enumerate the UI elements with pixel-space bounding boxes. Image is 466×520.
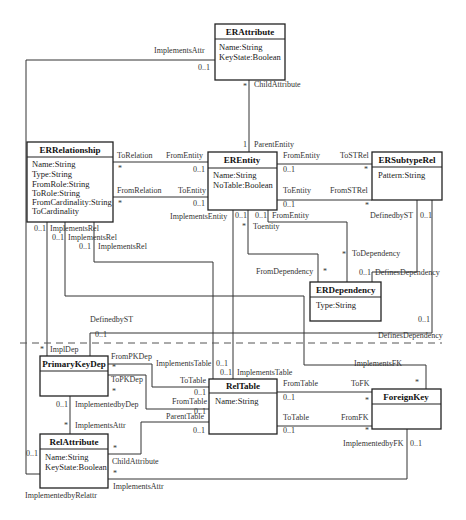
class-ersubtyperel[interactable]: ERSubtypeRel Pattern:String — [372, 152, 442, 200]
multiplicity-label: * — [112, 387, 116, 396]
class-attribute: Type:String — [316, 300, 357, 310]
multiplicity-label: * — [365, 426, 369, 435]
multiplicity-label: * — [323, 267, 327, 276]
class-attribute: Name:String — [213, 170, 257, 180]
multiplicity-label: 0..1 — [283, 165, 295, 174]
class-title: RelAttribute — [50, 437, 99, 447]
role-label: DefinedbyST — [90, 315, 133, 324]
role-label: ImplementsRel — [68, 233, 118, 242]
multiplicity-label: 0..1 — [283, 393, 295, 402]
class-attribute: KeyState:Boolean — [219, 52, 282, 62]
multiplicity-label: * — [364, 165, 368, 174]
role-label: DefinedbyST — [370, 211, 413, 220]
role-label: ToTable — [283, 413, 309, 422]
class-attribute: Name:String — [215, 396, 259, 406]
role-label: ParentEntity — [254, 140, 294, 149]
class-title: ERSubtypeRel — [378, 155, 436, 165]
role-label: FromDependency — [256, 267, 313, 276]
class-title: PrimaryKeyDep — [42, 359, 105, 369]
multiplicity-label: * — [365, 396, 369, 405]
multiplicity-label: 0..1 — [220, 368, 232, 377]
role-label: ImplementsAttr — [75, 421, 126, 430]
assoc-implementsattr-implementedbyfk — [107, 429, 407, 479]
multiplicity-label: 0..1 — [26, 449, 38, 458]
multiplicity-label: * — [243, 82, 247, 91]
role-label: ImplementsAttr — [113, 482, 164, 491]
multiplicity-label: 0..1 — [193, 165, 205, 174]
class-relattribute[interactable]: RelAttribute Name:String KeyState:Boolea… — [40, 434, 108, 488]
multiplicity-label: * — [40, 345, 44, 354]
class-reltable[interactable]: RelTable Name:String — [209, 379, 277, 434]
role-label: ToTable — [180, 376, 206, 385]
multiplicity-label: 1 — [243, 140, 247, 149]
class-title: EREntity — [224, 155, 261, 165]
multiplicity-label: * — [415, 378, 419, 387]
multiplicity-label: 0..1 — [410, 439, 422, 448]
multiplicity-label: 0..1 — [79, 242, 91, 251]
multiplicity-label: * — [113, 444, 117, 453]
uml-class-diagram: ERAttribute Name:String KeyState:Boolean… — [0, 0, 466, 520]
multiplicity-label: * — [118, 199, 122, 208]
role-label: ToFK — [351, 379, 370, 388]
class-attribute: Name:String — [45, 452, 89, 462]
multiplicity-label: 0..1 — [235, 211, 247, 220]
class-title: ERAttribute — [226, 27, 275, 37]
class-foreignkey[interactable]: ForeignKey — [372, 389, 441, 429]
role-label: FromFK — [341, 413, 369, 422]
class-attribute: Pattern:String — [378, 170, 426, 180]
class-title: ERRelationship — [39, 145, 100, 155]
role-label: ImplementsRel — [50, 224, 100, 233]
role-label: ImplementedbyRelattr — [25, 491, 97, 500]
role-label: ImplementsEntity — [170, 212, 227, 221]
class-erattribute[interactable]: ERAttribute Name:String KeyState:Boolean — [215, 24, 285, 80]
multiplicity-label: * — [365, 201, 369, 210]
role-label: ToSTRel — [340, 151, 370, 160]
role-label: FromRelation — [117, 186, 161, 195]
role-label: ImplementsFK — [354, 359, 402, 368]
multiplicity-label: 0..1 — [283, 200, 295, 209]
class-attribute: Name:String — [32, 159, 76, 169]
role-label: ToEntity — [178, 186, 206, 195]
role-label: FromEntity — [283, 151, 320, 160]
multiplicity-label: * — [342, 250, 346, 259]
multiplicity-label: 0..1 — [359, 268, 371, 277]
class-attribute: Type:String — [32, 169, 73, 179]
class-title: ERDependency — [316, 285, 376, 295]
multiplicity-label: 0..1 — [52, 233, 64, 242]
role-label: ChildAttribute — [112, 457, 159, 466]
multiplicity-label: * — [242, 222, 246, 231]
multiplicity-label: 0..1 — [34, 224, 46, 233]
class-erentity[interactable]: EREntity Name:String NoTable:Boolean — [208, 152, 277, 210]
role-label: ImplementedbyDep — [75, 400, 139, 409]
multiplicity-label: 0..1 — [420, 211, 432, 220]
role-label: FromPKDep — [111, 352, 152, 361]
role-label: ToEntity — [283, 186, 311, 195]
role-label: FromEntity — [272, 211, 309, 220]
role-label: ImplDep — [50, 345, 78, 354]
class-attribute: ToCardinality — [32, 206, 80, 216]
multiplicity-label: * — [64, 421, 68, 430]
role-label: ParentTable — [166, 412, 205, 421]
multiplicity-label: 0..1 — [193, 199, 205, 208]
class-title: ForeignKey — [383, 392, 429, 402]
multiplicity-label: 0..1 — [95, 330, 107, 339]
class-erdependency[interactable]: ERDependency Type:String — [310, 282, 381, 321]
multiplicity-label: * — [113, 469, 117, 478]
class-title: RelTable — [226, 381, 260, 391]
multiplicity-label: * — [118, 164, 122, 173]
class-attribute: KeyState:Boolean — [45, 462, 108, 472]
role-label: DefinesDependency — [375, 268, 440, 277]
multiplicity-label: 0..1 — [198, 63, 210, 72]
role-label: ImplementsAttr — [154, 46, 205, 55]
class-errelationship[interactable]: ERRelationship Name:String Type:String F… — [27, 142, 113, 222]
role-label: ToRelation — [117, 151, 152, 160]
class-primarykeydep[interactable]: PrimaryKeyDep — [40, 356, 108, 396]
multiplicity-label: 0..1 — [255, 211, 267, 220]
role-label: ImplementsRel — [98, 242, 148, 251]
role-label: FromSTRel — [330, 186, 369, 195]
role-label: ToDependency — [352, 249, 400, 258]
multiplicity-label: 0..1 — [283, 426, 295, 435]
multiplicity-label: 0..1 — [56, 400, 68, 409]
class-attribute: NoTable:Boolean — [213, 180, 274, 190]
multiplicity-label: 0..1 — [216, 359, 228, 368]
